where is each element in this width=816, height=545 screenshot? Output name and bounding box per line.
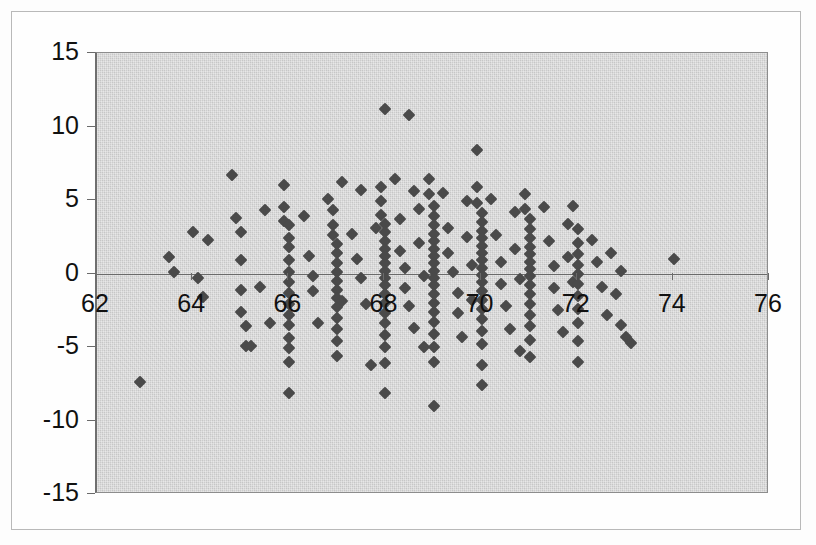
scatter-point [235,226,248,239]
scatter-point [413,202,426,215]
scatter-point [283,319,296,332]
scatter-point [302,249,315,262]
scatter-point [485,192,498,205]
scatter-point [542,235,555,248]
scatter-point [365,358,378,371]
scatter-point [461,230,474,243]
scatter-point [283,386,296,399]
scatter-point [283,355,296,368]
y-axis-tick-label: 10 [17,113,79,138]
y-axis-tick-label: -10 [17,407,79,432]
scatter-point [264,317,277,330]
x-axis-tick-label: 72 [546,291,606,316]
scatter-point [422,173,435,186]
x-axis-tick [191,273,192,280]
x-axis-tick [672,273,673,280]
scatter-point [336,176,349,189]
scatter-point [398,261,411,274]
x-axis-tick-label: 64 [161,291,221,316]
y-axis-tick-label: -15 [17,480,79,505]
scatter-point [408,185,421,198]
scatter-point [470,180,483,193]
scatter-point [427,316,440,329]
scatter-point [379,329,392,342]
scatter-point [442,222,455,235]
y-axis-tick [87,126,95,127]
scatter-point [523,333,536,346]
scatter-point [475,324,488,337]
scatter-point [557,326,570,339]
scatter-point [667,252,680,265]
scatter-point [307,270,320,283]
scatter-point [389,173,402,186]
x-axis-tick-label: 66 [257,291,317,316]
scatter-point [591,255,604,268]
scatter-point [413,236,426,249]
y-axis-tick-label: 5 [17,186,79,211]
scatter-point [437,186,450,199]
x-axis-tick-label: 68 [353,291,413,316]
scatter-point [230,211,243,224]
scatter-point [326,204,339,217]
plot-area [95,52,768,493]
y-axis-tick-label: -5 [17,333,79,358]
x-axis-tick [480,273,481,280]
scatter-point [610,288,623,301]
scatter-point [408,322,421,335]
x-axis-tick-label: 70 [450,291,510,316]
scatter-point [393,213,406,226]
scatter-point [379,317,392,330]
scatter-point [427,399,440,412]
scatter-point [331,335,344,348]
scatter-point [427,355,440,368]
scatter-point [446,266,459,279]
scatter-point [571,355,584,368]
scatter-point [379,357,392,370]
scatter-point [168,266,181,279]
scatter-point [509,242,522,255]
scatter-point [379,386,392,399]
y-axis-tick [87,346,95,347]
scatter-point [427,327,440,340]
scatter-point [355,183,368,196]
scatter-point [235,283,248,296]
y-axis-tick [87,199,95,200]
scatter-point [605,247,618,260]
y-axis-tick-label: 0 [17,260,79,285]
x-axis-tick-label: 76 [738,291,798,316]
scatter-point [393,245,406,258]
scatter-point [475,338,488,351]
scatter-point [547,260,560,273]
scatter-point [427,341,440,354]
y-axis-tick [87,493,95,494]
y-axis-tick-label: 15 [17,39,79,64]
scatter-point [235,305,248,318]
scatter-point [283,254,296,267]
scatter-point [571,335,584,348]
y-axis-tick [87,273,95,274]
scatter-point [259,204,272,217]
scatter-point [379,102,392,115]
scatter-point [422,188,435,201]
scatter-point [297,210,310,223]
scatter-point [312,317,325,330]
y-axis-tick [87,52,95,53]
scatter-point [235,254,248,267]
scatter-point [283,241,296,254]
scatter-point [187,226,200,239]
scatter-point [470,144,483,157]
scatter-point [331,323,344,336]
scatter-point [456,330,469,343]
scatter-point [475,379,488,392]
scatter-point [403,108,416,121]
x-axis-tick [383,273,384,280]
scatter-point [523,351,536,364]
scatter-point [615,264,628,277]
scatter-point [331,349,344,362]
scatter-point [494,277,507,290]
scatter-point [283,342,296,355]
scatter-point [240,320,253,333]
x-axis-tick-label: 74 [642,291,702,316]
scatter-point [201,233,214,246]
scatter-point [345,227,358,240]
